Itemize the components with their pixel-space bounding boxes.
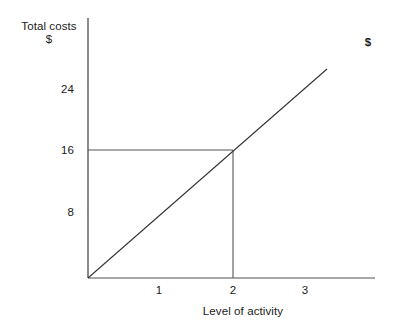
- y-axis-unit: $: [14, 33, 84, 46]
- total-cost-line: [88, 69, 327, 278]
- chart-plot-area: [0, 0, 397, 336]
- x-tick-label-3: 3: [295, 284, 315, 297]
- y-tick-label-16: 16: [40, 144, 74, 157]
- y-axis-title: Total costs $: [14, 20, 84, 46]
- x-axis-title: Level of activity: [178, 305, 308, 318]
- y-tick-label-24: 24: [40, 83, 74, 96]
- x-tick-label-1: 1: [149, 284, 169, 297]
- y-axis-title-text: Total costs: [21, 20, 76, 32]
- x-tick-label-2: 2: [223, 284, 243, 297]
- cost-behaviour-chart: Total costs $ 24 16 8 1 2 3 $ Level of a…: [0, 0, 397, 336]
- y-tick-label-8: 8: [40, 206, 74, 219]
- corner-currency-annotation: $: [358, 36, 378, 49]
